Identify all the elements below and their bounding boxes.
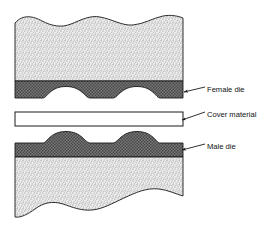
cover-material-leader	[182, 112, 205, 120]
cover-material	[15, 112, 183, 126]
leader-lines	[182, 87, 205, 150]
upper-block-body	[15, 15, 183, 81]
die-forming-diagram: Female die Cover material Male die	[0, 0, 279, 235]
upper-block	[15, 15, 183, 81]
lower-block	[15, 157, 183, 217]
female-die-leader	[184, 87, 205, 92]
cover-material-body	[15, 112, 183, 126]
female-die	[15, 81, 183, 98]
male-die-leader	[182, 144, 205, 150]
female-die-body	[15, 81, 183, 98]
male-die	[15, 132, 183, 158]
cover-material-label: Cover material	[207, 110, 257, 119]
figure-root: Female die Cover material Male die	[0, 0, 279, 235]
labels: Female die Cover material Male die	[207, 85, 257, 151]
lower-block-body	[15, 157, 183, 217]
female-die-label: Female die	[207, 85, 245, 94]
male-die-body	[15, 132, 183, 158]
male-die-label: Male die	[207, 142, 236, 151]
